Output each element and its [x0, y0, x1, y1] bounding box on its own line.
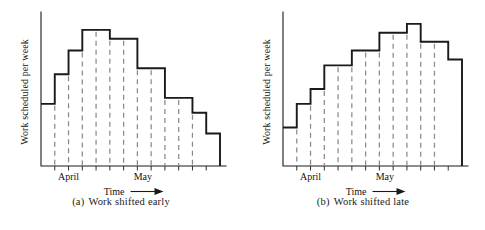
month-label: May	[134, 171, 152, 182]
caption-b: (b)Work shifted late	[242, 196, 484, 207]
plot-area-b: Work scheduled per weekAprilMayTime	[242, 0, 484, 196]
x-axis-ticks	[297, 166, 448, 171]
caption-index-b: (b)	[317, 196, 330, 207]
panel-work-shifted-early: Work scheduled per weekAprilMayTime (a)W…	[0, 0, 242, 230]
time-arrow-head	[155, 188, 164, 195]
y-axis-label: Work scheduled per week	[19, 39, 30, 145]
x-axis-label: Time	[346, 186, 367, 196]
step-chart-a: Work scheduled per weekAprilMayTime	[0, 0, 242, 196]
month-label-group: AprilMay	[300, 171, 394, 182]
week-divider-group	[297, 35, 435, 165]
caption-index-a: (a)	[72, 196, 84, 207]
month-label: May	[376, 171, 394, 182]
caption-text-b: Work shifted late	[334, 196, 409, 207]
step-chart-b: Work scheduled per weekAprilMayTime	[242, 0, 484, 196]
month-label: April	[300, 171, 321, 182]
plot-area-a: Work scheduled per weekAprilMayTime	[0, 0, 242, 196]
caption-a: (a)Work shifted early	[0, 196, 242, 207]
time-arrow-head	[397, 188, 406, 195]
figure-container: Work scheduled per weekAprilMayTime (a)W…	[0, 0, 485, 230]
month-label: April	[58, 171, 79, 182]
y-axis-label: Work scheduled per week	[261, 39, 272, 145]
x-axis-label: Time	[104, 186, 125, 196]
caption-text-a: Work shifted early	[88, 196, 169, 207]
step-profile	[41, 30, 220, 166]
x-axis-ticks	[55, 166, 206, 171]
month-label-group: AprilMay	[58, 171, 152, 182]
step-profile	[283, 24, 462, 166]
panel-work-shifted-late: Work scheduled per weekAprilMayTime (b)W…	[242, 0, 484, 230]
